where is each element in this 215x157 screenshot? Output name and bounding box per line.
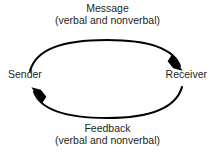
message-title: Message: [0, 3, 215, 15]
feedback-caption: Feedback (verbal and nonverbal): [0, 123, 215, 147]
feedback-subtitle: (verbal and nonverbal): [0, 135, 215, 147]
curved-arrow-right-icon: [30, 40, 183, 71]
receiver-node-label: Receiver: [166, 69, 207, 81]
curved-arrow-left-icon: [31, 87, 182, 118]
message-subtitle: (verbal and nonverbal): [0, 15, 215, 27]
sender-node-label: Sender: [8, 69, 42, 81]
communication-cycle-diagram: Message (verbal and nonverbal) Sender Re…: [0, 0, 215, 157]
message-caption: Message (verbal and nonverbal): [0, 3, 215, 27]
feedback-title: Feedback: [0, 123, 215, 135]
